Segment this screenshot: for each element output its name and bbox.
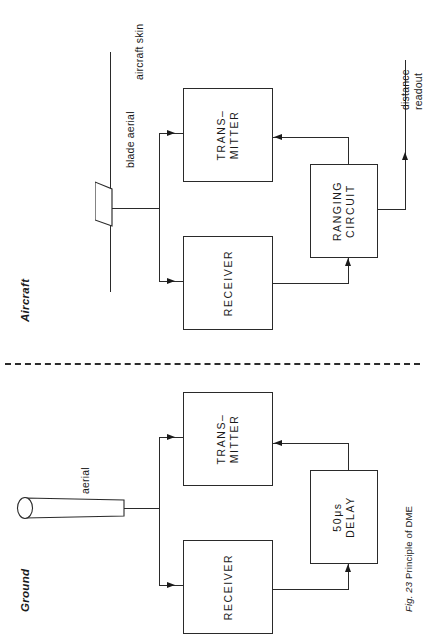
arrow-to-aircraft-transmitter-trigger — [274, 134, 282, 140]
ground-transmitter-block: TRANS– MITTER — [183, 392, 273, 486]
ground-transmitter-label-line2: MITTER — [228, 413, 241, 464]
section-label-aircraft: Aircraft — [20, 279, 32, 322]
aircraft-aerial-feed-line — [112, 208, 160, 209]
arrow-to-ground-delay — [345, 564, 351, 572]
callout-readout: readout — [413, 73, 424, 110]
callout-aircraft-skin: aircraft skin — [134, 24, 145, 80]
figure-caption-prefix: Fig. 23 — [403, 582, 414, 612]
arrow-to-ground-transmitter-trigger — [274, 440, 282, 446]
aircraft-ranging-circuit-label-line1: RANGING — [331, 181, 344, 241]
aircraft-transmitter-label-line2: MITTER — [228, 109, 241, 160]
arrow-distance-readout — [402, 152, 408, 160]
blade-aerial-icon — [95, 180, 129, 228]
ground-receiver-to-delay-horizontal — [273, 589, 349, 590]
ground-delay-label: 50μs DELAY — [331, 496, 357, 538]
ground-aerial-feed-line — [124, 508, 160, 509]
ground-delay-label-line2: DELAY — [344, 496, 357, 538]
arrow-to-aircraft-ranging-circuit — [345, 258, 351, 266]
aircraft-receiver-label: RECEIVER — [222, 250, 235, 316]
aircraft-ranging-circuit-block: RANGING CIRCUIT — [310, 164, 378, 258]
ground-delay-to-transmitter-vertical — [348, 444, 349, 470]
aircraft-receiver-to-ranging-horizontal — [273, 283, 349, 284]
arrow-to-ground-transmitter — [167, 434, 175, 440]
ground-receiver-block: RECEIVER — [183, 540, 273, 634]
arrow-to-ground-receiver — [167, 582, 175, 588]
aircraft-ranging-circuit-label: RANGING CIRCUIT — [331, 181, 357, 241]
aircraft-transmitter-block: TRANS– MITTER — [183, 88, 273, 182]
callout-distance: distance — [400, 69, 411, 110]
aircraft-receiver-label-line1: RECEIVER — [222, 250, 235, 316]
ground-aerial-icon — [16, 494, 132, 522]
ground-delay-block: 50μs DELAY — [310, 470, 378, 564]
aircraft-feed-bus — [159, 133, 160, 281]
ground-delay-label-line1: 50μs — [331, 496, 344, 538]
ground-receiver-label-line1: RECEIVER — [222, 554, 235, 620]
aircraft-receiver-block: RECEIVER — [183, 236, 273, 330]
aircraft-ranging-to-transmitter-vertical — [348, 138, 349, 164]
ground-feed-bus — [159, 437, 160, 585]
aircraft-ranging-to-transmitter-horizontal — [273, 137, 349, 138]
aircraft-skin-line — [110, 52, 111, 292]
ground-delay-to-transmitter-horizontal — [273, 443, 349, 444]
arrow-to-aircraft-receiver — [167, 278, 175, 284]
callout-blade-aerial: blade aerial — [125, 111, 136, 168]
aircraft-ranging-circuit-label-line2: CIRCUIT — [344, 181, 357, 241]
aircraft-transmitter-label: TRANS– MITTER — [215, 109, 241, 160]
figure-caption-text: Principle of DME — [403, 506, 414, 579]
ground-transmitter-label: TRANS– MITTER — [215, 413, 241, 464]
ground-air-separator — [5, 363, 420, 365]
arrow-to-aircraft-transmitter — [167, 130, 175, 136]
aircraft-ranging-output-horizontal — [378, 209, 406, 210]
callout-ground-aerial: aerial — [80, 467, 91, 494]
section-label-ground: Ground — [20, 569, 32, 612]
figure-caption: Fig. 23 Principle of DME — [404, 506, 414, 612]
ground-receiver-label: RECEIVER — [222, 554, 235, 620]
aircraft-transmitter-label-line1: TRANS– — [215, 109, 228, 160]
ground-transmitter-label-line1: TRANS– — [215, 413, 228, 464]
